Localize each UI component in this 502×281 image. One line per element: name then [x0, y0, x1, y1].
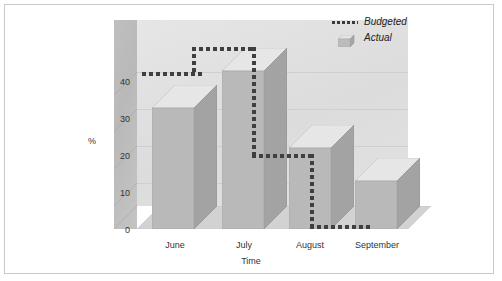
- x-tick-july: July: [214, 240, 274, 250]
- chart-legend: Budgeted Actual: [332, 16, 442, 46]
- y-tick-40: 40: [104, 77, 130, 87]
- left-wall-ticks: [114, 20, 138, 230]
- budget-riser-june-july: [192, 47, 196, 75]
- budget-step-september: [310, 225, 372, 229]
- y-tick-20: 20: [104, 151, 130, 161]
- legend-label-budgeted: Budgeted: [364, 16, 407, 27]
- y-tick-30: 30: [104, 114, 130, 124]
- x-tick-june: June: [145, 240, 205, 250]
- x-tick-september: September: [341, 240, 413, 250]
- budget-step-august: [252, 154, 314, 158]
- y-tick-10: 10: [104, 188, 130, 198]
- bar-actual-september: [355, 158, 397, 229]
- legend-item-actual: Actual: [332, 32, 442, 46]
- dotted-line-swatch-icon: [332, 21, 358, 24]
- budget-riser-july-aug: [252, 47, 256, 158]
- legend-item-budgeted: Budgeted: [332, 16, 442, 30]
- y-axis-label: %: [88, 136, 96, 146]
- bar-chart-3d: 40 30 20 10 0 % Time June July August Se…: [0, 0, 502, 281]
- x-tick-august: August: [279, 240, 341, 250]
- bar-swatch-icon: [338, 33, 355, 45]
- bar-actual-july: [222, 48, 264, 229]
- budget-step-july: [192, 47, 256, 51]
- x-axis-label: Time: [0, 256, 502, 266]
- y-tick-0: 0: [104, 225, 130, 235]
- budget-riser-aug-sep: [310, 154, 314, 228]
- legend-label-actual: Actual: [364, 32, 392, 43]
- bar-actual-june: [152, 85, 194, 229]
